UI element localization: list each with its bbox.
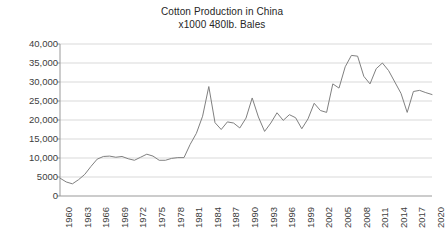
x-tick-label: 1993 [269, 207, 279, 228]
x-tick-label: 1984 [213, 207, 223, 228]
x-tick-label: 1972 [138, 207, 148, 228]
x-tick-label: 1969 [120, 207, 130, 228]
x-tick-label: 1978 [176, 207, 186, 228]
x-tick-label: 2005 [343, 207, 353, 228]
x-tick-label: 1981 [194, 207, 204, 228]
x-tick-label: 2011 [380, 208, 390, 228]
x-tick-label: 2017 [417, 207, 427, 228]
x-tick-label: 1990 [250, 207, 260, 228]
x-tick-label: 2020 [436, 207, 446, 228]
x-tick-label: 1996 [287, 207, 297, 228]
x-tick-label: 2002 [324, 207, 334, 228]
x-tick-label: 1966 [101, 207, 111, 228]
x-tick-label: 1960 [64, 207, 74, 228]
x-tick-label: 2014 [399, 207, 409, 228]
x-tick-label: 1987 [231, 207, 241, 228]
x-tick-label: 1963 [83, 207, 93, 228]
x-tick-label: 1975 [157, 207, 167, 228]
x-tick-label: 1999 [306, 207, 316, 228]
x-tick-label: 2008 [362, 207, 372, 228]
